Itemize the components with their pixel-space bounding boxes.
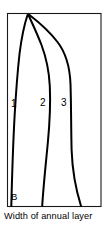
curve-label-3: 3 [61,97,67,108]
figure-panel-b: 1 2 3 B Width of annual layer [0,0,109,238]
curve-label-2: 2 [40,97,46,108]
panel-label-b: B [11,191,17,202]
curve-3 [30,15,82,206]
curve-1 [11,15,27,206]
curve-label-1: 1 [11,98,17,109]
curve-2 [29,15,51,206]
plot-area: 1 2 3 B Width of annual layer [0,0,109,238]
x-axis-caption: Width of annual layer [4,211,92,221]
